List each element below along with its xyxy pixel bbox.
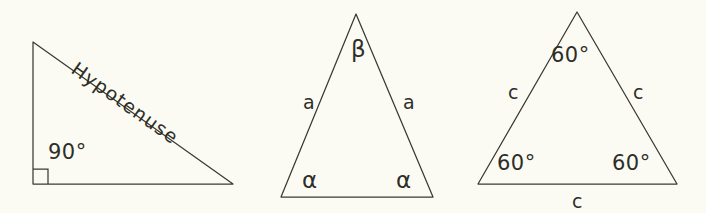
isosceles-side-right-label: a <box>403 91 415 113</box>
equilateral-triangle-group: 60° c c 60° 60° c <box>478 12 677 212</box>
right-triangle-group: 90° Hypotenuse <box>33 42 233 184</box>
diagram-canvas: 90° Hypotenuse β a a α α 60° c c 60° 60°… <box>0 0 706 213</box>
equilateral-angle-bottom-left-label: 60° <box>497 151 536 175</box>
isosceles-side-left-label: a <box>303 91 315 113</box>
equilateral-side-bottom-label: c <box>572 190 583 212</box>
geometry-diagram: 90° Hypotenuse β a a α α 60° c c 60° 60°… <box>0 0 706 213</box>
equilateral-side-right-label: c <box>633 81 644 103</box>
isosceles-base-angle-right-label: α <box>396 167 412 193</box>
isosceles-apex-angle-label: β <box>351 36 366 62</box>
right-angle-label: 90° <box>48 140 87 164</box>
isosceles-triangle-group: β a a α α <box>281 14 433 197</box>
right-angle-square-icon <box>33 169 48 184</box>
equilateral-angle-top-label: 60° <box>551 43 590 67</box>
equilateral-angle-bottom-right-label: 60° <box>612 151 651 175</box>
hypotenuse-label: Hypotenuse <box>68 57 183 148</box>
isosceles-base-angle-left-label: α <box>302 167 318 193</box>
equilateral-side-left-label: c <box>508 81 519 103</box>
